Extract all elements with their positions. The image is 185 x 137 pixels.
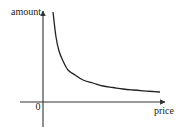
x-axis-label: price [154,105,175,116]
demand-curve [53,12,160,92]
y-axis-label: amount [11,6,41,17]
chart: amount price 0 [0,0,185,137]
origin-label: 0 [36,101,41,112]
